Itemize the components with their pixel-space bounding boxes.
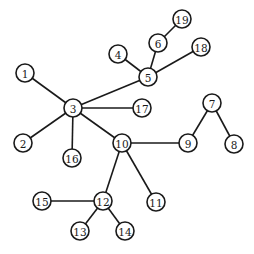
node-label: 16: [65, 153, 79, 165]
node-16: 16: [63, 149, 81, 167]
node-label: 8: [231, 139, 238, 151]
node-label: 6: [155, 38, 162, 50]
node-15: 15: [33, 192, 51, 210]
node-label: 17: [135, 103, 148, 115]
node-13: 13: [71, 222, 89, 240]
node-8: 8: [225, 135, 243, 153]
node-label: 5: [145, 72, 152, 84]
node-label: 13: [73, 226, 86, 238]
node-3: 3: [64, 99, 82, 117]
node-label: 14: [118, 226, 132, 238]
node-18: 18: [192, 38, 210, 56]
node-9: 9: [179, 134, 197, 152]
node-19: 19: [173, 10, 191, 28]
node-2: 2: [14, 134, 32, 152]
node-label: 10: [115, 138, 128, 150]
node-label: 19: [175, 14, 188, 26]
node-1: 1: [16, 64, 34, 82]
node-label: 9: [185, 138, 192, 150]
tree-diagram: 12345678910111213141516171819: [0, 0, 254, 254]
node-4: 4: [109, 45, 127, 63]
node-5: 5: [139, 68, 157, 86]
node-label: 7: [209, 98, 216, 110]
node-label: 18: [194, 42, 207, 54]
node-label: 1: [22, 68, 29, 80]
node-label: 12: [96, 196, 109, 208]
node-12: 12: [94, 192, 112, 210]
node-14: 14: [116, 222, 134, 240]
node-label: 2: [20, 138, 27, 150]
node-label: 4: [115, 49, 122, 61]
node-11: 11: [147, 193, 165, 211]
node-7: 7: [203, 94, 221, 112]
node-6: 6: [149, 34, 167, 52]
node-label: 11: [149, 197, 162, 209]
node-label: 15: [35, 196, 48, 208]
node-17: 17: [133, 99, 151, 117]
node-label: 3: [70, 103, 77, 115]
node-10: 10: [113, 134, 131, 152]
edge-10-11: [122, 143, 156, 202]
